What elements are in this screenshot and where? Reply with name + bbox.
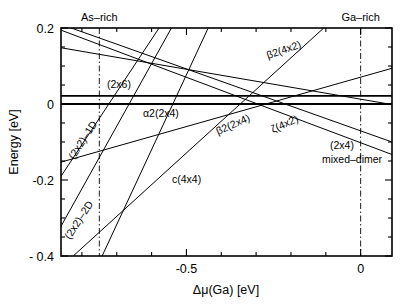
limit-label-Ga-rich: Ga–rich <box>341 11 380 23</box>
curve-label: (2x4) <box>330 139 354 151</box>
x-tick-label: 0 <box>357 262 364 276</box>
limit-label-As-rich: As–rich <box>81 11 118 23</box>
x-tick-label: -0.5 <box>176 262 198 276</box>
y-tick-label: 0.2 <box>37 22 54 36</box>
y-axis-label: Energy [eV] <box>7 109 21 174</box>
energy-vs-chemical-potential-chart: -0.500.20-0.2- 0.4 (2x6)α2(2x4)β2(4x2)β2… <box>0 0 406 306</box>
curve-label: c(4x4) <box>172 173 201 185</box>
x-axis-label: Δμ(Ga) [eV] <box>193 283 259 297</box>
curve-label: mixed–dimer <box>322 153 383 165</box>
y-tick-label: - 0.4 <box>29 250 54 264</box>
y-tick-label: -0.2 <box>32 174 54 188</box>
y-tick-label: 0 <box>47 98 54 112</box>
curve-label: (2x6) <box>107 78 131 90</box>
curve-label: α2(2x4) <box>143 107 179 119</box>
